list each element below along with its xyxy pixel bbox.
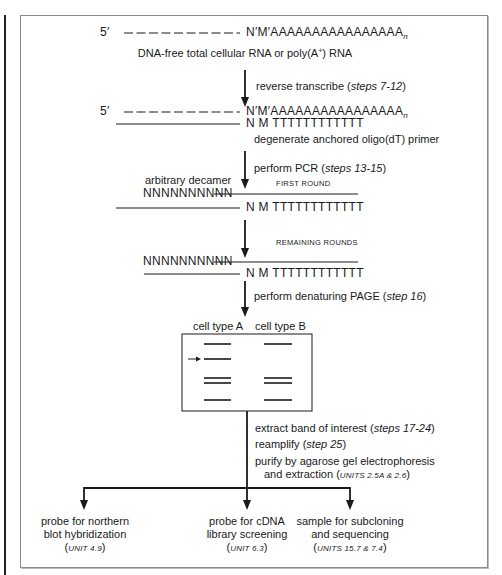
step-pcr: perform PCR (steps 13-15): [254, 162, 386, 175]
step-purify-cont: and extraction (UNITS 2.5A & 2.6): [264, 468, 410, 482]
decamer-sequence-2: NNNNNNNNNN: [143, 255, 233, 268]
primer-label: degenerate anchored oligo(dT) primer: [254, 133, 439, 146]
primer-sequence-3: N M TTTTTTTTTTTT: [246, 201, 364, 214]
rna-caption-text: DNA-free total cellular RNA or poly(A: [138, 47, 318, 59]
outcome-line2: and sequencing: [296, 528, 403, 541]
step-close: ): [382, 162, 386, 174]
step-ref: steps 13-15: [325, 162, 382, 174]
outcome-line1: sample for subcloning: [296, 515, 403, 528]
step-close: ): [423, 290, 427, 302]
outcome-line1: probe for cDNA: [207, 515, 288, 528]
step-ref: step 16: [386, 290, 422, 302]
outcome-line2: library screening: [207, 528, 288, 541]
step-purify: purify by agarose gel electrophoresis: [255, 455, 435, 468]
step-text: reamplify (: [255, 438, 306, 450]
five-prime-label-1: 5′: [100, 26, 110, 39]
step-close: ): [342, 438, 346, 450]
rna-caption: DNA-free total cellular RNA or poly(A+) …: [138, 44, 352, 60]
step-extract: extract band of interest (steps 17-24): [255, 422, 435, 435]
remaining-rounds-label: REMAINING ROUNDS: [276, 236, 358, 249]
step-text: and extraction (: [264, 468, 340, 480]
gel-box: [182, 334, 312, 411]
outcome-ref-text: UNITS 15.7 & 7.4: [317, 544, 383, 553]
step-close: ): [402, 80, 406, 92]
step-ref: steps 17-24: [374, 422, 431, 434]
outcome-northern: probe for northern blot hybridization (U…: [41, 515, 129, 555]
step-close: ): [406, 468, 410, 480]
primer-sequence-4: N M TTTTTTTTTTTT: [246, 267, 364, 280]
step-page: perform denaturing PAGE (step 16): [254, 290, 426, 303]
step-reverse-transcribe: reverse transcribe (steps 7-12): [256, 80, 406, 93]
outcome-ref-text: UNIT 6.3: [230, 544, 264, 553]
outcome-ref: (UNIT 6.3): [207, 541, 288, 555]
primer-sequence-2: N M TTTTTTTTTTTT: [246, 117, 364, 130]
rna-sequence-text: N′M′AAAAAAAAAAAAAAAA: [246, 25, 403, 39]
decamer-sequence-1: NNNNNNNNNN: [143, 187, 233, 200]
outcome-line1: probe for northern: [41, 515, 129, 528]
rna-sequence-subscript: n: [403, 111, 408, 120]
step-text: perform denaturing PAGE (: [254, 290, 386, 302]
outcome-cdna: probe for cDNA library screening (UNIT 6…: [207, 515, 288, 555]
outcome-ref: (UNITS 15.7 & 7.4): [296, 541, 403, 555]
step-text: perform PCR (: [254, 162, 325, 174]
step-ref: steps 7-12: [351, 80, 402, 92]
step-text: reverse transcribe (: [256, 80, 351, 92]
outcome-ref-text: UNIT 4.9: [68, 544, 102, 553]
rna-sequence-subscript: n: [403, 32, 408, 41]
rna-sequence-1: N′M′AAAAAAAAAAAAAAAAn: [246, 26, 408, 43]
step-ref: step 25: [306, 438, 342, 450]
step-close: ): [431, 422, 435, 434]
rna-caption-tail: ) RNA: [322, 47, 352, 59]
first-round-label: FIRST ROUND: [276, 177, 330, 190]
step-reamplify: reamplify (step 25): [255, 438, 346, 451]
lane-b-label: cell type B: [255, 320, 306, 333]
lane-a-label: cell type A: [193, 320, 243, 333]
diagram-lines: [0, 0, 502, 575]
step-ref: UNITS 2.5A & 2.6: [340, 471, 407, 480]
step-text: extract band of interest (: [255, 422, 374, 434]
five-prime-label-2: 5′: [100, 105, 110, 118]
outcome-subcloning: sample for subcloning and sequencing (UN…: [296, 515, 403, 555]
outcome-line2: blot hybridization: [41, 528, 129, 541]
outcome-ref: (UNIT 4.9): [41, 541, 129, 555]
